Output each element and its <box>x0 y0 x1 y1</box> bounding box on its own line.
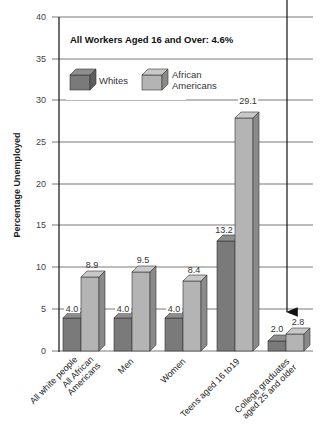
svg-text:10: 10 <box>36 262 46 272</box>
legend-label-african-americans-1: African <box>172 69 202 80</box>
svg-text:9.5: 9.5 <box>137 255 150 265</box>
svg-text:40: 40 <box>36 12 46 22</box>
legend-swatch-african-americans <box>142 69 168 90</box>
chart-title: All Workers Aged 16 and Over: 4.6% <box>70 34 234 45</box>
svg-text:20: 20 <box>36 179 46 189</box>
category-label-college-1: College graduates <box>233 356 292 415</box>
svg-text:4.0: 4.0 <box>168 304 181 314</box>
svg-text:0: 0 <box>41 346 46 356</box>
category-label-teens: Teens aged 16 to19 <box>178 356 241 419</box>
legend: Whites African Americans <box>66 69 217 100</box>
legend-swatch-whites <box>70 69 96 90</box>
category-label-men: Men <box>116 356 135 375</box>
svg-text:8.4: 8.4 <box>188 265 201 275</box>
category-label-women: Women <box>159 356 188 385</box>
svg-text:4.0: 4.0 <box>66 304 79 314</box>
svg-text:4.0: 4.0 <box>117 304 130 314</box>
category-labels: All white people All African Americans M… <box>28 354 299 420</box>
svg-text:35: 35 <box>36 54 46 64</box>
svg-text:15: 15 <box>36 220 46 230</box>
unemployment-bar-chart: 0 5 10 15 20 25 30 35 40 Percentage Unem… <box>0 0 320 436</box>
legend-label-african-americans-2: Americans <box>172 80 217 91</box>
svg-text:5: 5 <box>41 304 46 314</box>
svg-text:2.0: 2.0 <box>271 324 284 334</box>
svg-text:29.1: 29.1 <box>239 96 257 106</box>
y-axis-label: Percentage Unemployed <box>12 132 22 237</box>
svg-text:30: 30 <box>36 95 46 105</box>
svg-text:13.2: 13.2 <box>215 225 233 235</box>
svg-text:25: 25 <box>36 137 46 147</box>
svg-text:8.9: 8.9 <box>86 260 99 270</box>
svg-text:2.8: 2.8 <box>292 317 305 327</box>
legend-label-whites: Whites <box>99 75 128 86</box>
y-tick-labels: 0 5 10 15 20 25 30 35 40 <box>36 12 46 356</box>
